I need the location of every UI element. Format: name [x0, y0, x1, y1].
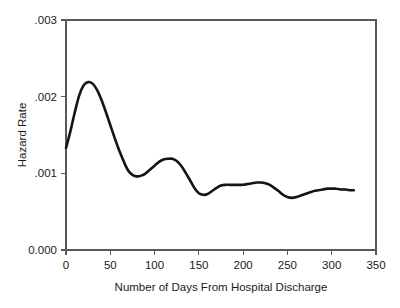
- x-tick-label: 150: [189, 259, 208, 271]
- y-tick-label: .001: [35, 167, 57, 179]
- y-axis-title: Hazard Rate: [16, 103, 28, 168]
- hazard-rate-chart: 050100150200250300350 0.000.001.002.003 …: [0, 0, 400, 308]
- x-tick-label: 200: [234, 259, 253, 271]
- x-tick-label: 50: [104, 259, 117, 271]
- chart-figure: 050100150200250300350 0.000.001.002.003 …: [0, 0, 400, 308]
- x-tick-label: 100: [145, 259, 164, 271]
- y-tick-label: .002: [35, 91, 57, 103]
- x-tick-label: 300: [322, 259, 341, 271]
- y-tick-label: 0.000: [28, 244, 57, 256]
- x-tick-label: 0: [63, 259, 69, 271]
- x-tick-label: 350: [366, 259, 385, 271]
- y-tick-label: .003: [35, 14, 57, 26]
- x-axis-title: Number of Days From Hospital Discharge: [115, 281, 328, 293]
- x-tick-label: 250: [278, 259, 297, 271]
